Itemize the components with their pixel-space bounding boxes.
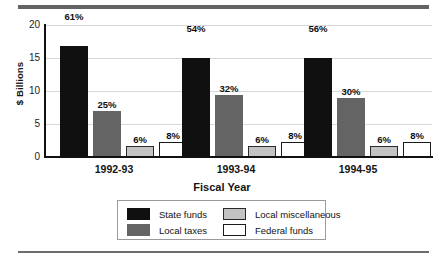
top-divider-rule xyxy=(18,5,429,9)
bar-state-funds-1994-95 xyxy=(304,58,332,157)
plot-area: 61% 25% 6% 8% 54% 32% 6% 8% 56% 30% 6% 8… xyxy=(45,25,432,157)
x-tick-1993-94: 1993-94 xyxy=(182,163,290,175)
y-axis-tick-labels: 20 15 10 5 0 xyxy=(6,0,40,264)
bottom-divider-rule xyxy=(18,251,429,253)
x-tick-1992-93: 1992-93 xyxy=(60,163,168,175)
bar-local-taxes-1994-95 xyxy=(337,98,365,157)
legend-label-state-funds: State funds xyxy=(159,209,207,220)
bar-state-funds-1993-94 xyxy=(182,58,210,157)
chart-legend: State funds Local taxes Local miscellane… xyxy=(117,200,326,240)
y-tick-0: 0 xyxy=(8,152,40,162)
legend-item-local-miscellaneous: Local miscellaneous xyxy=(223,207,341,221)
bar-state-funds-1992-93 xyxy=(60,46,88,157)
bar-local-taxes-1993-94 xyxy=(215,95,243,157)
legend-item-federal-funds: Federal funds xyxy=(223,223,313,237)
x-tick-1994-95: 1994-95 xyxy=(304,163,412,175)
bar-label-state-funds-1992-93: 61% xyxy=(55,12,93,22)
legend-label-local-miscellaneous: Local miscellaneous xyxy=(255,209,341,220)
bar-label-local-taxes-1993-94: 32% xyxy=(210,84,248,94)
bar-label-federal-funds-1994-95: 8% xyxy=(398,131,436,141)
legend-swatch-local-miscellaneous-icon xyxy=(223,208,246,220)
gridline-20 xyxy=(45,25,432,26)
y-tick-20: 20 xyxy=(8,20,40,30)
legend-label-federal-funds: Federal funds xyxy=(255,225,313,236)
y-axis-label: $ Billions xyxy=(14,49,25,119)
legend-item-state-funds: State funds xyxy=(127,207,207,221)
bar-local-taxes-1992-93 xyxy=(93,111,121,157)
legend-label-local-taxes: Local taxes xyxy=(159,225,207,236)
bar-federal-funds-1994-95 xyxy=(403,142,431,157)
legend-swatch-state-funds-icon xyxy=(127,208,150,220)
bar-label-local-taxes-1992-93: 25% xyxy=(88,100,126,110)
gridline-15 xyxy=(45,58,432,59)
y-axis-line xyxy=(44,24,46,158)
legend-item-local-taxes: Local taxes xyxy=(127,223,207,237)
legend-swatch-local-taxes-icon xyxy=(127,224,150,236)
x-axis-label: Fiscal Year xyxy=(0,181,444,193)
y-tick-5: 5 xyxy=(8,119,40,129)
bar-chart: 61% 25% 6% 8% 54% 32% 6% 8% 56% 30% 6% 8… xyxy=(0,0,444,264)
bar-label-local-taxes-1994-95: 30% xyxy=(332,87,370,97)
x-axis-line xyxy=(44,156,433,158)
bar-label-state-funds-1994-95: 56% xyxy=(299,24,337,34)
legend-swatch-federal-funds-icon xyxy=(223,224,246,236)
bar-label-state-funds-1993-94: 54% xyxy=(177,24,215,34)
